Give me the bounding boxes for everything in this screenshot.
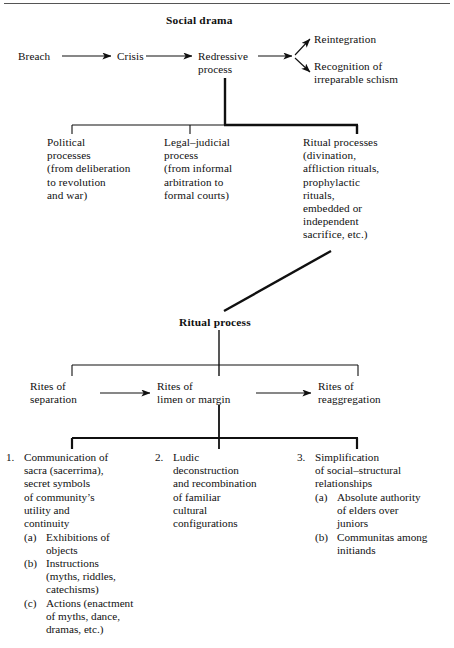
feature-3-sub-b-text: Communitas among initiands	[337, 531, 454, 557]
feature-2-text: Ludic deconstruction and recombination o…	[173, 451, 298, 530]
feature-1-sub-b-text: Instructions (myths, riddles, catechisms…	[46, 557, 171, 597]
node-recognition-irreparable-schism: Recognition of irreparable schism	[314, 60, 398, 86]
node-crisis: Crisis	[117, 50, 144, 63]
arrow-fork-to-recognition	[295, 58, 310, 72]
node-breach: Breach	[18, 50, 50, 63]
feature-2-number: 2.	[155, 451, 163, 464]
diagram-title: Social drama	[166, 14, 233, 27]
feature-1-sub-a-marker: (a)	[24, 531, 36, 544]
feature-1-text: Communication of sacra (sacerrima), secr…	[24, 451, 164, 530]
phase-rites-of-limen-or-margin: Rites of limen or margin	[157, 380, 230, 406]
branch-legal-judicial-process: Legal–judicial process (from informal ar…	[164, 136, 284, 202]
feature-3-sub-a-marker: (a)	[315, 491, 327, 504]
ritual-process-title: Ritual process	[179, 316, 251, 329]
node-reintegration: Reintegration	[314, 33, 376, 46]
feature-1-sub-c-marker: (c)	[24, 597, 36, 610]
feature-3-sub-a-text: Absolute authority of elders over junior…	[337, 491, 454, 531]
arrow-fork-to-reintegration	[295, 39, 310, 55]
feature-1-number: 1.	[6, 451, 14, 464]
social-drama-diagram: Social drama Breach Crisis Redressive pr…	[0, 0, 454, 648]
phase-rites-of-reaggregation: Rites of reaggregation	[318, 380, 381, 406]
feature-3-number: 3.	[297, 451, 305, 464]
feature-1-sub-a-text: Exhibitions of objects	[46, 531, 166, 557]
page-top-rule	[4, 3, 450, 4]
node-redressive-process: Redressive process	[198, 50, 248, 76]
feature-1-sub-c-text: Actions (enactment of myths, dance, dram…	[46, 597, 176, 637]
phase-rites-of-separation: Rites of separation	[30, 380, 77, 406]
feature-3-text: Simplification of social–structural rela…	[315, 451, 454, 491]
feature-3-sub-b-marker: (b)	[315, 531, 328, 544]
branch-ritual-processes: Ritual processes (divination, affliction…	[303, 136, 433, 242]
feature-1-sub-b-marker: (b)	[24, 557, 37, 570]
diagonal-ritual-processes-to-ritual-process	[224, 251, 331, 311]
branch-political-processes: Political processes (from deliberation t…	[47, 136, 177, 202]
